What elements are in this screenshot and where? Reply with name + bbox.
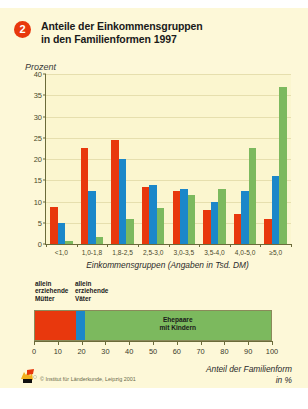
stacked-bar-tick-mark	[34, 341, 35, 345]
stacked-bar-tick-mark	[105, 341, 106, 345]
y-tick-label: 35	[34, 91, 42, 100]
bar	[180, 189, 188, 244]
legend-vaeter-line3: Väter	[75, 295, 108, 302]
bar	[142, 187, 150, 244]
stacked-bar-tick-mark	[177, 341, 178, 345]
bar	[50, 207, 58, 244]
x-tick-mark	[107, 244, 108, 247]
copyright-credit: © Institut für Länderkunde, Leipzig 2001	[40, 376, 136, 382]
bar-group	[230, 74, 261, 244]
bar	[119, 159, 127, 244]
bar	[173, 191, 181, 244]
x-tick-label: 2,5-3,0	[143, 249, 164, 256]
chart-figure: 2 Anteile der Einkommensgruppen in den F…	[0, 8, 308, 388]
bar	[203, 210, 211, 244]
bar	[218, 189, 226, 244]
bar-group	[169, 74, 200, 244]
bar	[88, 191, 96, 244]
y-tick-label: 0	[38, 240, 42, 249]
bar	[188, 195, 196, 244]
x-tick-mark	[199, 244, 200, 247]
x-tick-label: 1,0-1,8	[82, 249, 103, 256]
x-tick-mark	[46, 244, 47, 247]
ehepaare-line2: mit Kindern	[85, 324, 271, 332]
stacked-bar-segment-label: Ehepaaremit Kindern	[85, 316, 271, 331]
y-tick-label: 20	[34, 155, 42, 164]
stacked-bar-tick-label: 20	[77, 347, 85, 356]
stacked-bar-tick-label: 50	[149, 347, 157, 356]
y-tick-label: 15	[34, 176, 42, 185]
x-tick-label: 4,0-5,0	[235, 249, 256, 256]
x-tick-mark	[260, 244, 261, 247]
stacked-bar-tick-label: 100	[266, 347, 278, 356]
stacked-bar-segment	[76, 311, 84, 340]
bar	[81, 148, 89, 244]
bar	[272, 176, 280, 244]
stacked-bar-tick-label: 60	[173, 347, 181, 356]
stacked-bar-tick-label: 70	[196, 347, 204, 356]
legend-muetter-line1: allein	[35, 280, 68, 287]
stacked-bar-tick-label: 10	[54, 347, 62, 356]
x-tick-label: 1,8-2,5	[112, 249, 133, 256]
stacked-bar-axis-title: Anteil der Familienform in %	[206, 364, 292, 385]
x-tick-mark	[77, 244, 78, 247]
y-tick-label: 10	[34, 197, 42, 206]
bar	[149, 185, 157, 245]
bar	[126, 219, 134, 245]
bar	[58, 223, 66, 244]
x-tick-label: 3,5-4,0	[204, 249, 225, 256]
stacked-bar-tick-mark	[248, 341, 249, 345]
stacked-bar-tick-label: 0	[32, 347, 36, 356]
title-line-2: in den Familienformen 1997	[41, 33, 203, 46]
title-line-1: Anteile der Einkommensgruppen	[41, 20, 203, 33]
stacked-bar-tick-mark	[201, 341, 202, 345]
bar	[111, 140, 119, 244]
stacked-share-bar: Ehepaaremit Kindern	[34, 310, 272, 341]
bar-group	[46, 74, 77, 244]
stacked-bar-tick-mark	[224, 341, 225, 345]
bar	[96, 237, 104, 244]
bar-group	[138, 74, 169, 244]
bar-groups	[46, 74, 291, 244]
bar	[211, 202, 219, 245]
bar	[241, 191, 249, 244]
bar	[65, 241, 73, 244]
legend: allein erziehende Mütter allein erziehen…	[0, 280, 308, 308]
bar	[157, 208, 165, 244]
stacked-bar-tick-mark	[58, 341, 59, 345]
stacked-bar-tick-mark	[272, 341, 273, 345]
stacked-bar-tick-mark	[153, 341, 154, 345]
page-title: Anteile der Einkommensgruppen in den Fam…	[41, 20, 203, 46]
x-tick-mark	[230, 244, 231, 247]
bar-chart-plot-area: 0510152025303540 <1,01,0-1,81,8-2,52,5-3…	[45, 74, 291, 245]
legend-item-muetter: allein erziehende Mütter	[35, 280, 68, 302]
figure-number-badge: 2	[14, 21, 31, 38]
stacked-bar-tick-mark	[129, 341, 130, 345]
x-tick-mark	[291, 244, 292, 247]
stacked-bar-tick-label: 80	[220, 347, 228, 356]
axis-title-line1: Anteil der Familienform	[206, 364, 292, 375]
legend-item-vaeter: allein erziehende Väter	[75, 280, 108, 302]
legend-vaeter-line2: erziehende	[75, 287, 108, 294]
x-tick-label: ≥5,0	[269, 249, 282, 256]
bar-group	[77, 74, 108, 244]
stacked-bar-tick-label: 30	[101, 347, 109, 356]
bar-group	[107, 74, 138, 244]
bar-group	[260, 74, 291, 244]
x-tick-label: 3,0-3,5	[174, 249, 195, 256]
ehepaare-line1: Ehepaare	[85, 316, 271, 324]
stacked-bar-segment: Ehepaaremit Kindern	[85, 311, 271, 340]
stacked-bar-tick-label: 90	[244, 347, 252, 356]
stacked-bar-segment	[35, 311, 76, 340]
y-tick-label: 25	[34, 133, 42, 142]
stacked-bar-tick-label: 40	[125, 347, 133, 356]
axis-title-line2: in %	[206, 375, 292, 386]
bar	[279, 87, 287, 244]
stacked-bar-tick-mark	[82, 341, 83, 345]
figure-header: 2 Anteile der Einkommensgruppen in den F…	[14, 20, 299, 46]
bar	[234, 214, 242, 244]
bar-group	[199, 74, 230, 244]
x-tick-mark	[138, 244, 139, 247]
legend-muetter-line3: Mütter	[35, 295, 68, 302]
y-tick-label: 40	[34, 70, 42, 79]
